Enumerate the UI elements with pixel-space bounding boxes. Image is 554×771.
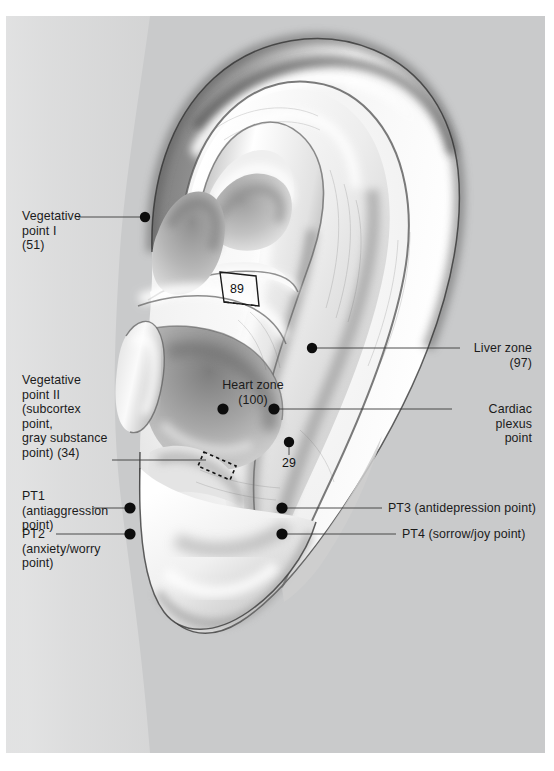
label-vegetative-point-2: Vegetative point II (subcortex point, gr… — [22, 373, 107, 461]
point-vegetative-1 — [140, 212, 150, 222]
label-vegetative-point-1: Vegetative point I (51) — [22, 209, 81, 253]
label-pt2: PT2 (anxiety/worry point) — [22, 527, 101, 571]
point-pt4 — [276, 528, 287, 539]
label-zone-89: 89 — [230, 282, 244, 296]
figure-canvas: Vegetative point I (51) Vegetative point… — [0, 0, 554, 771]
point-pt3 — [276, 502, 287, 513]
label-point-29: 29 — [282, 456, 296, 470]
label-cardiac-plexus-point: Cardiac plexus point — [404, 402, 532, 446]
point-pt1 — [124, 502, 135, 513]
label-pt4: PT4 (sorrow/joy point) — [402, 527, 525, 542]
point-pt2 — [124, 528, 135, 539]
label-liver-zone: Liver zone (97) — [404, 341, 532, 370]
label-heart-zone: Heart zone (100) — [208, 378, 298, 407]
point-liver-zone — [307, 343, 317, 353]
label-pt3: PT3 (antidepression point) — [388, 501, 536, 516]
point-29 — [284, 437, 294, 447]
